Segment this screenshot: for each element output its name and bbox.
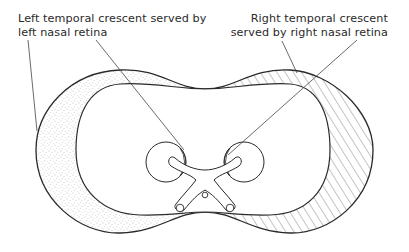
label-left-temporal-crescent: Left temporal crescent served by left na… <box>18 12 207 40</box>
label-right-line1: Right temporal crescent <box>231 12 388 26</box>
label-left-line1: Left temporal crescent served by <box>18 12 207 26</box>
leader-left-outer <box>28 40 37 131</box>
label-left-line2: left nasal retina <box>18 26 207 40</box>
leader-right-outer <box>282 41 297 73</box>
label-right-temporal-crescent: Right temporal crescent served by right … <box>231 12 388 40</box>
label-right-line2: served by right nasal retina <box>231 26 388 40</box>
